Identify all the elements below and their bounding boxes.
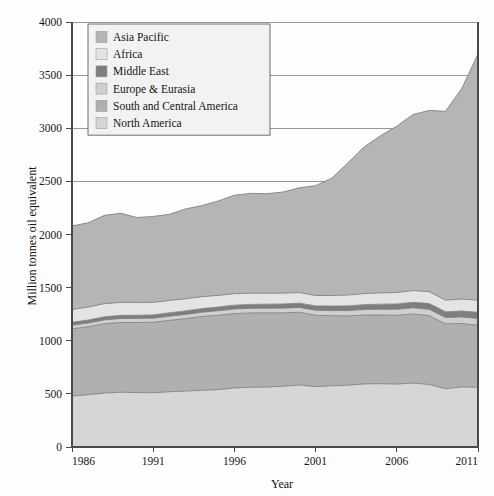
- legend-label-africa: Africa: [113, 48, 142, 60]
- y-tick-label-3000: 3000: [39, 122, 62, 134]
- legend-swatch-africa: [96, 49, 107, 60]
- y-tick-label-2500: 2500: [39, 175, 62, 187]
- legend-label-asia-pacific: Asia Pacific: [113, 31, 169, 43]
- area-chart: 05001000150020002500300035004000 1986199…: [0, 0, 494, 496]
- legend-label-south-and-central-america: South and Central America: [113, 100, 238, 112]
- x-tick-label-2011: 2011: [455, 455, 478, 467]
- y-axis-label: Million tonnes oil equivalent: [25, 166, 39, 306]
- legend-swatch-asia-pacific: [96, 32, 107, 43]
- legend-label-middle-east: Middle East: [113, 65, 170, 77]
- y-tick-label-1000: 1000: [39, 335, 62, 347]
- x-axis-ticks: 198619911996200120062011: [72, 447, 478, 467]
- y-tick-label-3500: 3500: [39, 69, 62, 81]
- x-axis-label: Year: [271, 477, 293, 491]
- y-tick-label-500: 500: [45, 388, 63, 400]
- y-tick-label-1500: 1500: [39, 282, 62, 294]
- chart-container: 05001000150020002500300035004000 1986199…: [0, 0, 494, 496]
- legend-swatch-south-and-central-america: [96, 100, 107, 111]
- legend-swatch-middle-east: [96, 66, 107, 77]
- y-tick-label-2000: 2000: [39, 229, 62, 241]
- x-tick-label-1991: 1991: [142, 455, 165, 467]
- y-tick-label-0: 0: [56, 441, 62, 453]
- legend-swatch-north-america: [96, 118, 107, 129]
- chart-legend: Asia PacificAfricaMiddle EastEurope & Eu…: [88, 24, 270, 135]
- x-tick-label-1986: 1986: [72, 455, 95, 467]
- y-axis-ticks: 05001000150020002500300035004000: [39, 16, 72, 453]
- x-tick-label-2001: 2001: [304, 455, 327, 467]
- x-tick-label-1996: 1996: [223, 455, 246, 467]
- legend-swatch-europe-eurasia: [96, 83, 107, 94]
- legend-label-north-america: North America: [113, 117, 182, 129]
- y-tick-label-4000: 4000: [39, 16, 62, 28]
- legend-label-europe-eurasia: Europe & Eurasia: [113, 83, 195, 96]
- x-tick-label-2006: 2006: [385, 455, 408, 467]
